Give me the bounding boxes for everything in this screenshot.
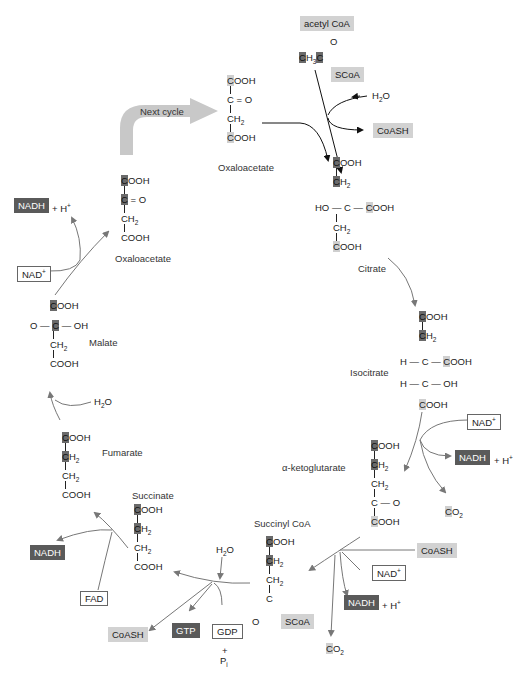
acetyl-coa-oxygen: O	[330, 36, 337, 47]
isocitrate-row3: H — C — COOH	[400, 356, 472, 367]
citrate-lower: CH2 COOH	[333, 214, 362, 252]
oxaloacetate-top-structure: COOH C = O CH2 COOH	[227, 75, 256, 143]
malate-structure-bottom: CH2 COOH	[50, 331, 79, 369]
succinyl-coa-oxygen: O	[252, 616, 259, 627]
next-cycle-label: Next cycle	[140, 106, 184, 117]
gdp: GDP	[212, 624, 243, 639]
fad: FAD	[80, 591, 108, 606]
acetyl-coa-label: acetyl CoA	[300, 16, 354, 31]
nadh-isocitrate: NADH	[455, 450, 490, 465]
nadh-malate: NADH	[14, 198, 49, 213]
fumarate-label: Fumarate	[102, 447, 143, 458]
co2-akg: CO2	[326, 643, 344, 658]
nad-malate: NAD+	[17, 266, 51, 282]
citrate-structure: COOH CH2	[333, 157, 362, 187]
h-akg: + H+	[382, 597, 401, 611]
coash-succinyl: CoASH	[108, 627, 148, 642]
co2-isocitrate: CO2	[445, 506, 463, 521]
nad-isocitrate: NAD+	[467, 414, 501, 430]
succinate-structure: COOH CH2 CH2 COOH	[134, 504, 163, 572]
coash-akg: CoASH	[417, 543, 457, 558]
alpha-ketoglutarate-label: α-ketoglutarate	[282, 462, 346, 473]
citrate-label: Citrate	[358, 263, 386, 274]
citrate-center-row: HO — C — COOH	[315, 202, 394, 213]
oxaloacetate-left-label: Oxaloacetate	[115, 253, 171, 264]
h2o-succinyl: H2O	[216, 544, 234, 559]
gtp: GTP	[172, 623, 200, 638]
h2o-citrate: H2O	[372, 90, 390, 105]
malate-structure-top: COOH	[50, 300, 79, 311]
succinyl-coa-structure: COOH CH2 CH2 C	[266, 536, 295, 604]
fumarate-structure: COOH CH2 CH2 COOH	[62, 432, 91, 500]
h2o-fumarate: H2O	[94, 396, 112, 411]
alpha-ketoglutarate-structure: COOH CH2 CH2 C — O COOH	[371, 440, 400, 527]
coash-citrate: CoASH	[373, 123, 413, 138]
nad-akg: NAD+	[372, 565, 406, 581]
isocitrate-row5: COOH	[419, 399, 448, 410]
h-malate: + H+	[52, 200, 71, 214]
acetyl-coa-scoa: SCoA	[331, 67, 364, 82]
oxaloacetate-left-structure: COOH C = O CH2 COOH	[121, 175, 150, 243]
h-isocitrate: + H+	[494, 452, 513, 466]
malate-label: Malate	[89, 337, 118, 348]
nadh-akg: NADH	[344, 595, 379, 610]
succinyl-coa-label: Succinyl CoA	[254, 518, 311, 529]
isocitrate-structure: COOH CH2	[419, 311, 448, 341]
oxaloacetate-top-label: Oxaloacetate	[218, 162, 274, 173]
succinyl-coa-scoa: SCoA	[281, 614, 314, 629]
pi: Pi	[220, 655, 228, 670]
nadh-succinate: NADH	[30, 545, 65, 560]
isocitrate-row4: H — C — OH	[400, 378, 458, 389]
acetyl-coa-structure: CH3C	[299, 52, 323, 67]
succinate-label: Succinate	[132, 490, 174, 501]
malate-center-row: O — C — OH	[30, 320, 88, 331]
isocitrate-label: Isocitrate	[350, 367, 389, 378]
